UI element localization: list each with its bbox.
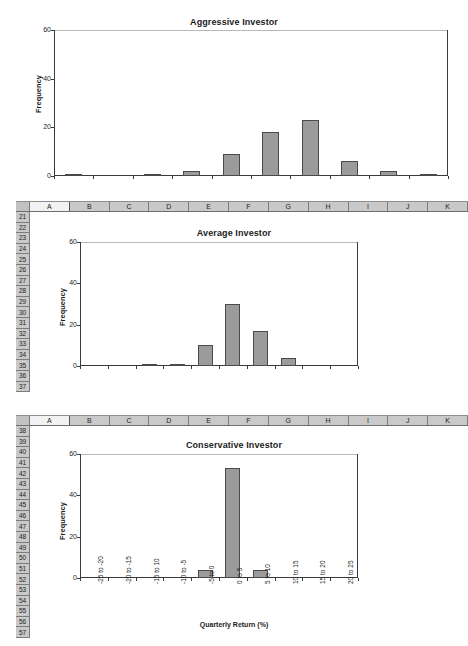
x-tick-mark (358, 578, 359, 581)
x-tick-mark (172, 176, 173, 179)
x-tick-label: -20 to -15 (125, 556, 132, 584)
bar (198, 345, 213, 366)
x-tick-label: 15 to 20 (319, 561, 326, 585)
x-tick-mark (219, 366, 220, 369)
column-header-e[interactable]: E (189, 202, 229, 211)
bar (262, 132, 279, 176)
bar (225, 468, 240, 578)
column-header-i[interactable]: I (349, 202, 389, 211)
select-all-corner[interactable] (16, 416, 30, 425)
y-tick-label: 20 (60, 533, 80, 540)
column-header-f[interactable]: F (229, 416, 269, 425)
x-tick-mark (409, 176, 410, 179)
column-header-d[interactable]: D (149, 202, 189, 211)
x-tick-mark (369, 176, 370, 179)
bar (380, 171, 397, 176)
chart-block-average: Average Investor Frequency 0204060 (0, 214, 468, 384)
x-tick-label: 0 to 5 (236, 568, 243, 584)
bar (281, 358, 296, 366)
plot-axes (80, 454, 358, 578)
x-tick-mark (247, 578, 248, 581)
bar (144, 174, 161, 176)
y-tick-label: 60 (34, 26, 54, 33)
x-tick-mark (330, 176, 331, 179)
x-tick-mark (93, 176, 94, 179)
x-tick-mark (219, 578, 220, 581)
x-tick-mark (163, 578, 164, 581)
y-tick-label: 0 (34, 172, 54, 179)
bar (223, 154, 240, 176)
y-tick-label: 40 (60, 491, 80, 498)
column-header-k[interactable]: K (428, 202, 468, 211)
column-header-c[interactable]: C (110, 202, 150, 211)
x-tick-mark (212, 176, 213, 179)
plot-area: 0204060 -25 to -20-20 to -15-15 to 10-10… (80, 454, 358, 578)
bar (65, 174, 82, 176)
x-tick-label: -25 to -20 (97, 556, 104, 584)
plot-area: 0204060 (80, 242, 358, 366)
x-tick-mark (191, 578, 192, 581)
bar (170, 364, 185, 366)
bar (142, 364, 157, 366)
x-tick-label: 20 to 25 (347, 561, 354, 585)
column-header-c[interactable]: C (110, 416, 150, 425)
y-tick-label: 20 (34, 123, 54, 130)
x-tick-mark (275, 578, 276, 581)
plot-axes (80, 242, 358, 366)
column-header-f[interactable]: F (229, 202, 269, 211)
x-tick-mark (80, 366, 81, 369)
select-all-corner[interactable] (16, 202, 30, 211)
chart-title: Average Investor (0, 228, 468, 238)
bar (253, 331, 268, 366)
column-header-j[interactable]: J (388, 202, 428, 211)
x-tick-mark (330, 366, 331, 369)
column-header-row[interactable]: ABCDEFGHIJK (16, 201, 468, 212)
x-tick-mark (302, 578, 303, 581)
column-header-d[interactable]: D (149, 416, 189, 425)
x-tick-mark (133, 176, 134, 179)
x-tick-mark (290, 176, 291, 179)
x-tick-mark (302, 366, 303, 369)
y-tick-label: 60 (60, 238, 80, 245)
x-tick-mark (108, 578, 109, 581)
y-tick-label: 20 (60, 321, 80, 328)
x-tick-mark (80, 578, 81, 581)
x-axis-title: Quarterly Return (%) (0, 621, 468, 628)
column-header-i[interactable]: I (349, 416, 389, 425)
y-tick-label: 40 (34, 75, 54, 82)
x-tick-mark (251, 176, 252, 179)
x-tick-mark (448, 176, 449, 179)
x-tick-mark (275, 366, 276, 369)
bar (341, 161, 358, 176)
column-header-e[interactable]: E (189, 416, 229, 425)
x-tick-mark (358, 366, 359, 369)
column-header-a[interactable]: A (30, 202, 70, 211)
x-tick-mark (108, 366, 109, 369)
x-tick-label: -10 to -5 (180, 560, 187, 584)
column-header-g[interactable]: G (269, 416, 309, 425)
x-tick-label: 5 to 10 (264, 564, 271, 584)
bar (183, 171, 200, 176)
x-tick-mark (330, 578, 331, 581)
column-header-h[interactable]: H (309, 202, 349, 211)
bar (302, 120, 319, 176)
x-tick-mark (247, 366, 248, 369)
x-tick-mark (136, 578, 137, 581)
column-header-g[interactable]: G (269, 202, 309, 211)
y-tick-label: 0 (60, 362, 80, 369)
column-header-b[interactable]: B (70, 202, 110, 211)
chart-title: Conservative Investor (0, 440, 468, 450)
bar (225, 304, 240, 366)
chart-title: Aggressive Investor (0, 17, 468, 27)
column-header-j[interactable]: J (388, 416, 428, 425)
column-header-b[interactable]: B (70, 416, 110, 425)
x-tick-mark (191, 366, 192, 369)
y-tick-label: 0 (60, 574, 80, 581)
column-header-h[interactable]: H (309, 416, 349, 425)
y-tick-label: 60 (60, 450, 80, 457)
y-tick-label: 40 (60, 279, 80, 286)
column-header-row[interactable]: ABCDEFGHIJK (16, 415, 468, 426)
plot-axes (54, 30, 448, 176)
column-header-a[interactable]: A (30, 416, 70, 425)
column-header-k[interactable]: K (428, 416, 468, 425)
